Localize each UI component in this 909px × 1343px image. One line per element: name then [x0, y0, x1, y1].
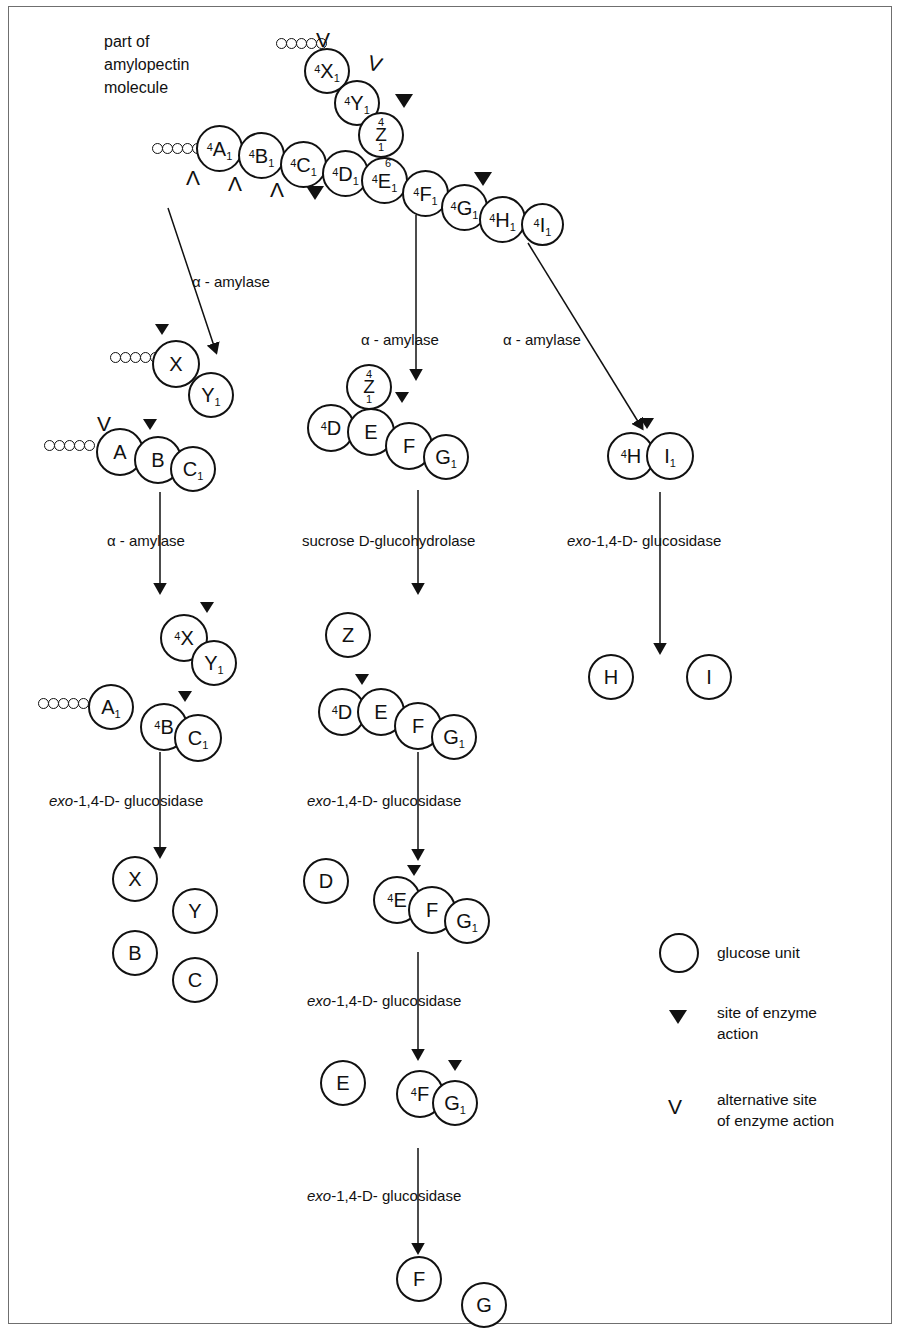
- node-main: G: [456, 911, 472, 931]
- node-main: G: [476, 1295, 492, 1315]
- node-X-L3: X: [112, 856, 158, 902]
- down-triangle-icon: [448, 1060, 462, 1071]
- figure-canvas: part of amylopectin molecule 4X1 4Y1: [0, 0, 909, 1343]
- node-suffix: 1: [510, 222, 516, 233]
- enzyme-exo-rest: -1,4-D- glucosidase: [591, 532, 721, 549]
- chain-tail-L2: [38, 698, 88, 709]
- node-Y1-L1: Y1: [188, 372, 234, 418]
- node-main: E: [364, 422, 377, 442]
- node-main: H: [604, 667, 618, 687]
- node-suffix: 1: [353, 176, 359, 187]
- down-triangle-icon: [306, 186, 324, 200]
- node-main: C: [188, 728, 202, 748]
- node-main: G: [444, 1093, 460, 1113]
- node-main: F: [419, 184, 431, 204]
- enzyme-label-sucrose-glucohydrolase: sucrose D-glucohydrolase: [302, 531, 475, 551]
- node-prefix: 4: [174, 631, 180, 642]
- down-triangle-icon: [640, 418, 654, 429]
- node-Y-L3: Y: [172, 888, 218, 934]
- node-E-M4: E: [320, 1060, 366, 1106]
- chain-tail-main: [152, 143, 202, 154]
- down-triangle-icon: [407, 865, 421, 876]
- node-main: H: [495, 210, 509, 230]
- node-Z-M2: Z: [325, 612, 371, 658]
- node-main: E: [378, 171, 391, 191]
- enzyme-label-exo-glucosidase-m2: exo-1,4-D- glucosidase: [307, 791, 461, 811]
- enzyme-exo-italic: exo: [307, 792, 331, 809]
- node-main: X: [320, 61, 333, 81]
- node-prefix: 4: [534, 218, 540, 229]
- node-suffix: 1: [226, 151, 232, 162]
- node-G-M5: G: [461, 1282, 507, 1328]
- node-main: X: [128, 869, 141, 889]
- node-suffix: 1: [670, 458, 676, 469]
- node-suffix: 1: [432, 196, 438, 207]
- legend-circle-icon: [659, 933, 699, 973]
- node-main: X: [180, 628, 193, 648]
- node-suffix: 1: [472, 923, 478, 934]
- node-H1-top: 4H1: [479, 196, 526, 243]
- node-main: G: [457, 198, 473, 218]
- node-prefix: 4: [372, 174, 378, 185]
- node-prefix: 4: [321, 421, 327, 432]
- node-main: F: [412, 716, 424, 736]
- node-main: H: [627, 446, 641, 466]
- node-suffix: 1: [460, 1105, 466, 1116]
- enzyme-label-exo-glucosidase-m3: exo-1,4-D- glucosidase: [307, 991, 461, 1011]
- node-B-L3: B: [112, 930, 158, 976]
- node-main: D: [319, 871, 333, 891]
- enzyme-exo-italic: exo: [307, 1187, 331, 1204]
- node-D-M3: D: [303, 858, 349, 904]
- node-main: C: [183, 459, 197, 479]
- node-suffix: 1: [451, 459, 457, 470]
- node-prefix: 4: [344, 96, 350, 107]
- vee-icon: V: [316, 28, 330, 52]
- node-main: B: [128, 943, 141, 963]
- enzyme-exo-italic: exo: [307, 992, 331, 1009]
- node-main: B: [151, 450, 164, 470]
- node-main: E: [393, 890, 406, 910]
- down-triangle-icon: [178, 691, 192, 702]
- node-main: F: [426, 900, 438, 920]
- node-main: B: [160, 717, 173, 737]
- enzyme-label-exo-glucosidase-l2: exo-1,4-D- glucosidase: [49, 791, 203, 811]
- node-suffix: 1: [391, 183, 397, 194]
- enzyme-label-exo-glucosidase-r1: exo-1,4-D- glucosidase: [567, 531, 721, 551]
- node-prefix: 4: [621, 449, 627, 460]
- node-prefix: 4: [366, 370, 372, 379]
- node-I1-top: 4I1: [521, 203, 564, 246]
- node-main: Y: [188, 901, 201, 921]
- node-main: Y: [201, 385, 214, 405]
- down-triangle-icon: [395, 392, 409, 403]
- node-main: E: [336, 1073, 349, 1093]
- node-prefix: 4: [154, 720, 160, 731]
- node-main: A: [101, 697, 114, 717]
- node-prefix: 4: [207, 142, 213, 153]
- chain-tail-L1b: [44, 440, 94, 451]
- node-main: C: [296, 155, 310, 175]
- node-suffix: 1: [311, 167, 317, 178]
- node-main: Y: [350, 93, 363, 113]
- down-triangle-icon: [474, 172, 492, 186]
- down-triangle-icon: [200, 602, 214, 613]
- down-triangle-icon: [143, 419, 157, 430]
- node-G1-M2: G1: [431, 714, 477, 760]
- node-G1-M4: G1: [432, 1080, 478, 1126]
- node-prefix: 4: [411, 1087, 417, 1098]
- node-F-M5: F: [396, 1256, 442, 1302]
- enzyme-label-alpha-amylase-left-2: α - amylase: [107, 531, 185, 551]
- node-main: G: [435, 447, 451, 467]
- legend-down-triangle-icon: [669, 1010, 687, 1024]
- node-prefix: 4: [290, 158, 296, 169]
- node-main: B: [255, 146, 268, 166]
- enzyme-exo-rest: -1,4-D- glucosidase: [331, 992, 461, 1009]
- down-triangle-icon: [395, 94, 413, 108]
- node-A1-L2: A1: [88, 684, 134, 730]
- node-C1-top: 4C1: [280, 141, 327, 188]
- enzyme-label-exo-glucosidase-m4: exo-1,4-D- glucosidase: [307, 1186, 461, 1206]
- node-main: A: [213, 139, 226, 159]
- node-suffix: 1: [218, 665, 224, 676]
- node-I1-R1: I1: [646, 432, 694, 480]
- down-triangle-icon: [355, 674, 369, 685]
- node-prefix: 4: [332, 705, 338, 716]
